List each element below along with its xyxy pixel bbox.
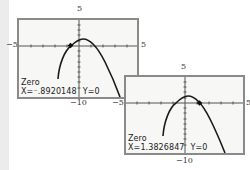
page-margin-strip <box>0 0 9 170</box>
screen1-ymax-label: 5 <box>77 5 82 13</box>
graph-screen-2: Zero X=1.3826847Y=0 <box>124 75 245 155</box>
readout-y-value: Y=0 <box>83 87 100 96</box>
readout-title: Zero <box>21 79 100 87</box>
screen2-ymin-label: −10 <box>176 157 193 165</box>
screen1-ymin-label: −10 <box>70 99 87 107</box>
readout-x-value: X=1.3826847 <box>128 143 185 152</box>
screen1-xmax-label: 5 <box>141 41 146 49</box>
screen2-ymax-label: 5 <box>181 63 186 71</box>
readout-y-value: Y=0 <box>191 143 208 152</box>
readout-x-value: X=⁻.8920148 <box>21 87 77 96</box>
zero-readout-2: Zero X=1.3826847Y=0 <box>128 135 208 152</box>
screen2-xmax-label: 5 <box>246 99 250 107</box>
graph-screen-1: Zero X=⁻.8920148Y=0 <box>17 18 139 99</box>
zero-readout-1: Zero X=⁻.8920148Y=0 <box>21 79 100 96</box>
readout-title: Zero <box>128 135 208 143</box>
screen2-xmin-label: −5 <box>112 99 124 107</box>
